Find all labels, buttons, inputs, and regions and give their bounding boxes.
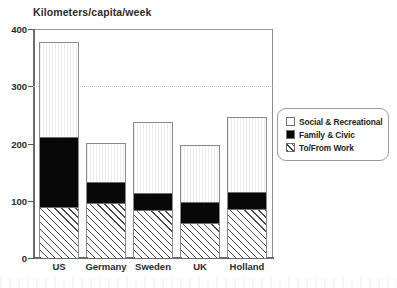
chart-legend: Social & Recreational Family & Civic To/… [277, 108, 389, 161]
x-tick-label-holland: Holland [230, 261, 265, 272]
x-tick-label-sweden: Sweden [135, 261, 171, 272]
bar-segment-social [228, 118, 266, 193]
bar-germany [86, 143, 126, 258]
bar-segment-work [40, 208, 78, 258]
bar-segment-work [181, 224, 219, 258]
legend-item-social: Social & Recreational [286, 115, 381, 128]
bar-segment-social [40, 43, 78, 138]
bar-segment-family [87, 183, 125, 204]
bar-holland [227, 117, 267, 258]
chart-figure: Kilometers/capita/week 0100200300400 USG… [0, 0, 397, 288]
bar-segment-social [181, 146, 219, 203]
legend-item-work: To/From Work [286, 141, 381, 154]
x-tick-label-germany: Germany [85, 261, 126, 272]
legend-label-work: To/From Work [299, 143, 354, 153]
bar-segment-family [134, 194, 172, 211]
white-square-icon [286, 117, 295, 126]
bar-us [39, 42, 79, 258]
bar-sweden [133, 122, 173, 258]
bar-segment-work [134, 211, 172, 258]
bar-segment-social [87, 144, 125, 183]
bar-uk [180, 145, 220, 258]
x-tick-label-us: US [52, 261, 65, 272]
bar-segment-work [87, 204, 125, 258]
bar-segment-family [40, 138, 78, 209]
black-square-icon [286, 130, 295, 139]
bar-segment-family [228, 193, 266, 211]
legend-item-family: Family & Civic [286, 128, 381, 141]
legend-label-social: Social & Recreational [299, 117, 383, 127]
bar-segment-social [134, 123, 172, 194]
bar-segment-work [228, 210, 266, 258]
hatched-square-icon [286, 143, 295, 152]
bar-segment-family [181, 203, 219, 224]
x-tick-label-uk: UK [193, 261, 207, 272]
legend-label-family: Family & Civic [299, 130, 355, 140]
